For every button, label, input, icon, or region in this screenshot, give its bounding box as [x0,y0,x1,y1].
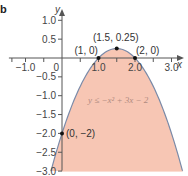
x-tick-label: −1.0 [16,62,36,73]
point-label: (1.5, 0.25) [93,32,139,43]
x-tick-label: 2.0 [128,62,142,73]
x-axis: x−1.001.02.03.0 [9,55,184,73]
data-point-marker [133,56,137,60]
panel-label: b [0,3,7,15]
inequality-graph: b x−1.001.02.03.0 y1.00.5−0.5−1.0−1.5−2.… [0,0,188,176]
y-tick-label: −2.5 [36,147,56,158]
y-tick-label: 0.5 [42,34,56,45]
x-tick-label: 1.0 [92,62,106,73]
data-point-marker [97,56,101,60]
y-tick-label: −1.5 [36,109,56,120]
y-tick-label: −3.0 [36,166,56,176]
inequality-label: y ≤ −x² + 3x − 2 [87,95,149,105]
y-tick-label: −1.0 [36,90,56,101]
point-label: (1, 0) [75,45,98,56]
y-axis-label: y [54,4,61,15]
point-label: (0, −2) [66,128,95,139]
point-label: (2, 0) [136,45,159,56]
y-tick-label: 1.0 [42,15,56,26]
y-tick-label: −2.0 [36,128,56,139]
data-point-marker [60,131,64,135]
x-tick-label: 3.0 [165,62,179,73]
y-tick-label: −0.5 [36,71,56,82]
data-point-marker [115,47,119,51]
